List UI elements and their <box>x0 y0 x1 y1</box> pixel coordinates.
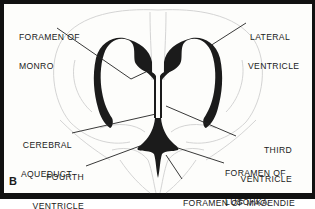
label-foramen-of-magendie: FORAMEN OF MAGENDIE <box>183 180 295 199</box>
label-line: MONRO <box>19 62 80 72</box>
label-line: FORAMEN OF <box>19 33 80 43</box>
right-lateral-ventricle <box>164 38 222 128</box>
leader-cerebral-aqueduct <box>72 114 156 133</box>
leader-third-ventricle <box>166 106 236 136</box>
leader-foramen-of-magendie <box>166 155 182 179</box>
label-line: LATERAL <box>248 33 299 43</box>
label-fourth-ventricle: FOURTH VENTRICLE <box>26 154 84 199</box>
label-line: VENTRICLE <box>248 62 299 72</box>
leader-foramen-of-luschka <box>178 148 224 163</box>
fourth-ventricle <box>137 118 178 178</box>
label-line: FORAMEN OF <box>225 169 286 179</box>
third-ventricle <box>140 66 176 120</box>
label-lateral-ventricle: LATERAL VENTRICLE <box>248 14 299 81</box>
label-line: FOURTH <box>26 173 84 183</box>
leader-lateral-ventricle <box>210 23 246 46</box>
ventricles <box>94 38 222 178</box>
label-foramen-of-monro: FORAMEN OF MONRO <box>19 14 80 81</box>
left-lateral-ventricle <box>94 38 152 128</box>
label-line: CEREBRAL <box>14 141 72 151</box>
panel-letter: B <box>9 175 17 187</box>
